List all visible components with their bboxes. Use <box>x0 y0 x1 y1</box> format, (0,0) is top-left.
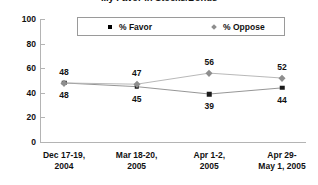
chart-title: ...y Favor in Stocks/Bonds <box>0 0 318 3</box>
x-label-line-2: 2005 <box>194 161 226 172</box>
y-axis-tick-label: 60 <box>2 63 36 73</box>
data-label: 56 <box>205 57 214 67</box>
data-label: 39 <box>205 101 214 111</box>
y-axis-tick-label: 20 <box>2 112 36 122</box>
y-axis-tick <box>40 142 45 143</box>
series-lines <box>40 19 306 142</box>
y-axis-tick-label: 100 <box>2 14 36 24</box>
y-axis-tick <box>40 19 45 20</box>
x-axis-line <box>40 142 306 143</box>
data-point-favor <box>280 86 285 91</box>
plot-area: 4845394448475652 <box>40 19 306 142</box>
y-axis-tick <box>40 117 45 118</box>
data-label: 44 <box>277 95 286 105</box>
x-axis-category-label: Dec 17-19,2004 <box>43 150 85 171</box>
line-chart: ...y Favor in Stocks/Bonds % Favor % Opp… <box>0 0 318 185</box>
y-axis-tick-label: 40 <box>2 88 36 98</box>
x-label-line-2: May 1, 2005 <box>258 161 305 172</box>
y-axis-tick <box>40 68 45 69</box>
y-axis-tick-label: 80 <box>2 39 36 49</box>
x-label-line-2: 2005 <box>116 161 158 172</box>
x-axis-category-label: Apr 29-May 1, 2005 <box>258 150 305 171</box>
x-label-line-1: Dec 17-19, <box>43 150 85 161</box>
data-label: 48 <box>59 67 68 77</box>
x-axis-category-label: Apr 1-2,2005 <box>194 150 226 171</box>
x-label-line-1: Mar 18-20, <box>116 150 158 161</box>
data-label: 47 <box>132 68 141 78</box>
y-axis-tick <box>40 44 45 45</box>
data-label: 45 <box>132 94 141 104</box>
series-line <box>64 73 282 84</box>
x-label-line-2: 2004 <box>43 161 85 172</box>
x-label-line-1: Apr 1-2, <box>194 150 226 161</box>
x-label-line-1: Apr 29- <box>258 150 305 161</box>
data-point-favor <box>207 92 212 97</box>
y-axis-tick-label: 0 <box>2 137 36 147</box>
y-axis-tick <box>40 93 45 94</box>
data-label: 48 <box>59 90 68 100</box>
data-label: 52 <box>277 62 286 72</box>
x-axis-category-label: Mar 18-20,2005 <box>116 150 158 171</box>
series-line <box>64 83 282 94</box>
